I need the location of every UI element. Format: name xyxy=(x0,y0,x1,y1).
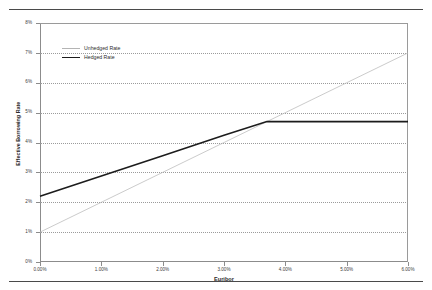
x-tick-mark xyxy=(347,262,348,266)
legend-label-unhedged: Unhedged Rate xyxy=(84,46,120,51)
x-tick-mark xyxy=(408,262,409,266)
line-chart: 8%7%6%5%4%3%2%1%0% 0.00%1.00%2.00%3.00%4… xyxy=(0,0,432,290)
x-tick-label: 0.00% xyxy=(20,268,60,273)
x-tick-mark xyxy=(101,262,102,266)
legend-swatch-hedged xyxy=(62,57,80,58)
x-tick-mark xyxy=(40,262,41,266)
legend-item-unhedged: Unhedged Rate xyxy=(62,44,120,53)
x-tick-label: 1.00% xyxy=(81,268,121,273)
y-tick-label: 1% xyxy=(6,230,32,235)
y-tick-label: 2% xyxy=(6,200,32,205)
series-line-hedged xyxy=(40,122,408,197)
x-tick-mark xyxy=(285,262,286,266)
x-tick-mark xyxy=(163,262,164,266)
y-axis-title: Effective Borrowing Rate xyxy=(16,79,21,189)
chart-legend: Unhedged Rate Hedged Rate xyxy=(62,44,120,62)
x-tick-label: 2.00% xyxy=(143,268,183,273)
y-tick-label: 0% xyxy=(6,260,32,265)
series-line-unhedged xyxy=(40,53,408,232)
x-tick-mark xyxy=(224,262,225,266)
legend-swatch-unhedged xyxy=(62,48,80,49)
y-tick-label: 8% xyxy=(6,21,32,26)
x-tick-label: 5.00% xyxy=(327,268,367,273)
legend-item-hedged: Hedged Rate xyxy=(62,53,120,62)
legend-label-hedged: Hedged Rate xyxy=(84,55,115,60)
x-tick-label: 3.00% xyxy=(204,268,244,273)
x-tick-label: 6.00% xyxy=(388,268,428,273)
x-tick-label: 4.00% xyxy=(265,268,305,273)
x-axis-title: Euribor xyxy=(40,277,408,283)
y-tick-label: 7% xyxy=(6,51,32,56)
